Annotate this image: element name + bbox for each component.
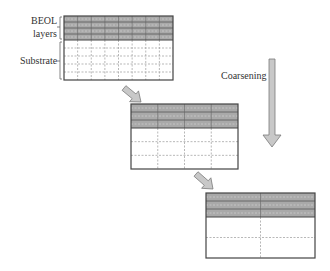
beol-label-line1: BEOL (31, 15, 57, 26)
arrow-medium-to-coarse-icon (194, 172, 213, 189)
beol-label-line2: layers (33, 28, 57, 39)
beol-bracket (60, 17, 62, 39)
arrow-fine-to-medium-icon (122, 86, 141, 102)
coarsening-label: Coarsening (221, 70, 267, 81)
coarsening-diagram (0, 0, 330, 271)
substrate-label: Substrate (20, 55, 57, 66)
substrate-bracket (60, 42, 62, 79)
